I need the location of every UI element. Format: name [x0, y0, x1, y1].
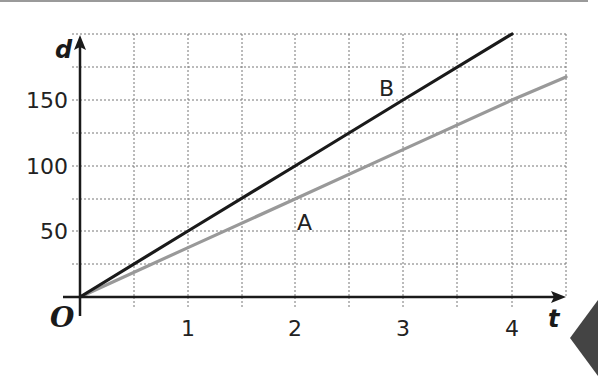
x-axis [63, 291, 566, 303]
y-tick-label-100: 100 [26, 154, 68, 179]
series-b-label: B [379, 76, 394, 101]
y-tick-label-50: 50 [40, 219, 68, 244]
x-tick-label-3: 3 [396, 316, 410, 341]
x-tick-label-2: 2 [288, 316, 302, 341]
series-a-label: A [297, 210, 312, 235]
y-axis [74, 35, 86, 316]
page-corner-decoration [570, 300, 598, 376]
x-tick-label-1: 1 [181, 316, 195, 341]
x-tick-label-4: 4 [505, 316, 519, 341]
y-tick-label-150: 150 [26, 88, 68, 113]
x-axis-label: t [548, 305, 561, 333]
origin-label: O [50, 301, 75, 334]
y-axis-label: d [55, 36, 73, 64]
